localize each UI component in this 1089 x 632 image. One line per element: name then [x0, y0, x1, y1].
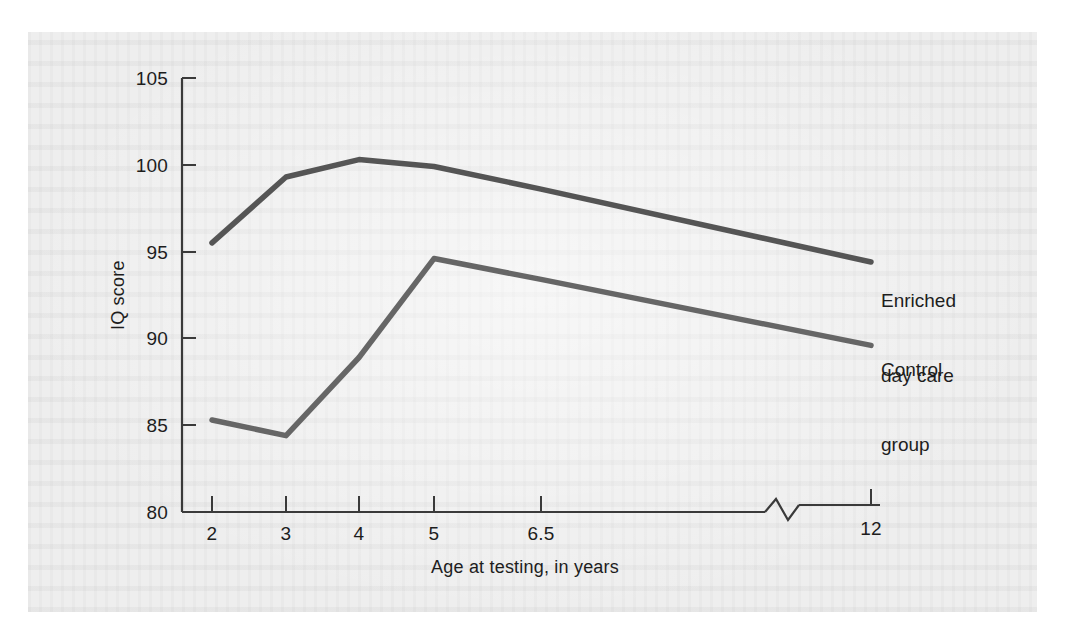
x-tick-label-6.5: 6.5 [511, 523, 571, 545]
series-line-control-group [212, 259, 871, 436]
axis-lines [182, 78, 880, 520]
series-label-control-line2: group [881, 432, 942, 457]
y-axis-title: IQ score [108, 260, 129, 330]
y-tick-label-90: 90 [112, 328, 168, 350]
x-axis-title: Age at testing, in years [380, 557, 670, 578]
y-tick-label-100: 100 [112, 155, 168, 177]
series-label-control-group: Control group [881, 307, 942, 507]
x-tick-label-12: 12 [841, 518, 901, 540]
x-tick-label-4: 4 [329, 523, 389, 545]
x-tick-label-3: 3 [256, 523, 316, 545]
x-axis-ticks [212, 489, 871, 512]
y-tick-label-85: 85 [112, 415, 168, 437]
x-tick-label-2: 2 [182, 523, 242, 545]
series-lines [212, 160, 871, 436]
y-axis-ticks [182, 78, 196, 425]
x-axis-break-zigzag [765, 499, 799, 520]
x-tick-label-5: 5 [404, 523, 464, 545]
series-label-control-line1: Control [881, 357, 942, 382]
y-tick-label-80: 80 [112, 502, 168, 524]
figure-root: 105 100 95 90 85 80 2 3 4 5 6.5 12 Age a… [0, 0, 1089, 632]
series-line-enriched-day-care [212, 160, 871, 262]
y-tick-label-105: 105 [112, 68, 168, 90]
